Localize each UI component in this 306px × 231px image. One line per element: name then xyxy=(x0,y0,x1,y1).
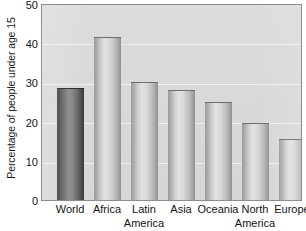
bar-chart-figure: Percentage of people under age 15 50 40 … xyxy=(0,0,306,231)
bar-africa xyxy=(94,37,121,201)
y-tick-label: 10 xyxy=(18,156,38,168)
x-tick-label-line: Europe xyxy=(274,203,306,215)
y-tick-label: 20 xyxy=(18,117,38,129)
x-tick-label-line: America xyxy=(113,216,175,230)
bar-asia xyxy=(168,90,195,200)
x-tick-label-line: America xyxy=(224,216,286,230)
x-tick-label-europe: Europe xyxy=(261,202,306,216)
bar-oceania xyxy=(205,102,232,201)
bar-latin-america xyxy=(131,82,158,200)
y-tick-label: 50 xyxy=(18,0,38,11)
plot-area xyxy=(41,4,302,201)
y-tick-label: 0 xyxy=(18,195,38,207)
x-axis-tick-labels: World Africa Latin America Asia Oceania … xyxy=(41,202,302,231)
y-tick-label: 30 xyxy=(18,77,38,89)
y-tick-label: 40 xyxy=(18,38,38,50)
bar-group xyxy=(42,5,301,200)
bar-europe xyxy=(279,139,302,200)
bar-north-america xyxy=(242,123,269,200)
y-axis-tick-labels: 50 40 30 20 10 0 xyxy=(15,0,38,231)
bar-world xyxy=(57,88,84,200)
